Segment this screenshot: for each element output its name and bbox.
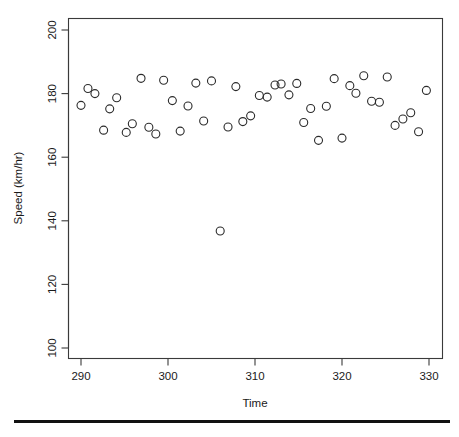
data-point	[200, 117, 208, 125]
y-axis-ticks: 100120140160180200	[46, 20, 69, 357]
data-point	[176, 127, 184, 135]
data-point	[322, 102, 330, 110]
data-point	[407, 109, 415, 117]
data-point	[360, 72, 368, 80]
y-tick-label: 180	[46, 84, 58, 103]
data-point	[77, 101, 85, 109]
footer-rule	[14, 420, 450, 423]
data-point	[383, 73, 391, 81]
data-point	[415, 128, 423, 136]
data-point	[293, 79, 301, 87]
y-axis-title: Speed (km/hr)	[12, 151, 24, 224]
data-point	[307, 105, 315, 113]
data-point	[239, 118, 247, 126]
data-point	[184, 102, 192, 110]
data-point	[137, 74, 145, 82]
data-point	[285, 91, 293, 99]
data-point	[315, 136, 323, 144]
data-point	[192, 79, 200, 87]
data-point	[224, 123, 232, 131]
x-tick-label: 330	[419, 370, 438, 382]
data-point	[391, 121, 399, 129]
data-point	[122, 128, 130, 136]
data-point	[84, 85, 92, 93]
plot-canvas: 100120140160180200 290300310320330 Speed…	[0, 0, 459, 437]
data-point	[168, 97, 176, 105]
data-point	[145, 123, 153, 131]
plot-frame	[69, 19, 443, 359]
data-point	[338, 134, 346, 142]
data-point	[100, 126, 108, 134]
data-point	[91, 90, 99, 98]
data-point	[277, 80, 285, 88]
data-point	[375, 98, 383, 106]
data-point	[160, 76, 168, 84]
x-tick-label: 310	[245, 370, 264, 382]
data-point	[247, 112, 255, 120]
data-point	[368, 97, 376, 105]
data-point	[352, 89, 360, 97]
x-axis-ticks: 290300310320330	[71, 359, 438, 383]
data-point	[106, 105, 114, 113]
data-points-layer	[77, 72, 430, 235]
data-point	[263, 93, 271, 101]
y-tick-label: 100	[46, 338, 58, 357]
x-axis-title: Time	[242, 397, 267, 409]
y-tick-label: 160	[46, 148, 58, 167]
x-tick-label: 320	[332, 370, 351, 382]
x-tick-label: 290	[71, 370, 90, 382]
data-point	[300, 119, 308, 127]
y-tick-label: 200	[46, 20, 58, 39]
data-point	[128, 120, 136, 128]
data-point	[422, 86, 430, 94]
data-point	[232, 83, 240, 91]
data-point	[330, 75, 338, 83]
data-point	[208, 77, 216, 85]
data-point	[399, 115, 407, 123]
x-tick-label: 300	[158, 370, 177, 382]
data-point	[216, 227, 224, 235]
data-point	[113, 94, 121, 102]
scatter-plot-figure: 100120140160180200 290300310320330 Speed…	[0, 0, 459, 437]
y-tick-label: 120	[46, 275, 58, 294]
data-point	[152, 130, 160, 138]
data-point	[346, 82, 354, 90]
y-tick-label: 140	[46, 211, 58, 230]
data-point	[255, 92, 263, 100]
